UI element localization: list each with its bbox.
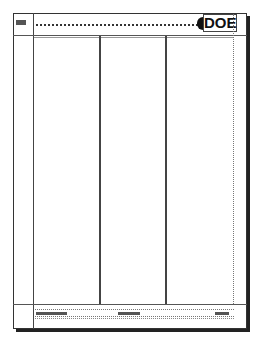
header-divider [13,35,247,36]
footer-placeholder-left[interactable] [36,312,67,315]
left-margin-guide [33,13,34,329]
header-dotted-rule [36,24,198,26]
right-margin-guide [233,14,235,304]
column-rule-1[interactable] [99,36,101,304]
footer-placeholder-right[interactable] [215,312,229,315]
footer-placeholder-center[interactable] [118,312,140,315]
page-frame[interactable] [13,13,247,329]
page-shadow-right [247,16,250,332]
logo-placeholder-icon[interactable] [16,20,26,25]
column-rule-2[interactable] [165,36,167,304]
page-shadow-bottom [16,329,250,332]
columns-top-guide [34,37,234,38]
masthead-title[interactable]: DOE [203,14,237,32]
footer-bottom-rule [35,318,234,319]
footer-divider [13,304,247,305]
